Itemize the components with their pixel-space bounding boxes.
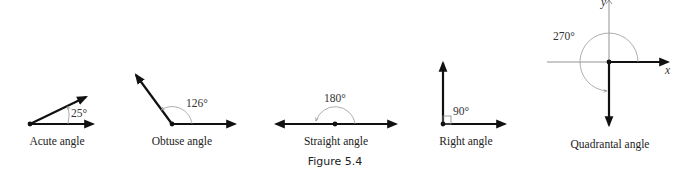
right-angle-diagram: 90° Right angle bbox=[439, 63, 505, 148]
y-axis-label: y bbox=[600, 0, 607, 9]
panel-caption: Straight angle bbox=[304, 135, 368, 148]
vertex-dot bbox=[170, 122, 175, 127]
angle-label: 270° bbox=[553, 30, 575, 42]
panel-caption: Quadrantal angle bbox=[571, 138, 650, 151]
straight-angle-diagram: 180° Straight angle Figure 5.4 bbox=[276, 92, 396, 168]
angle-label: 90° bbox=[453, 105, 470, 117]
angle-label: 25° bbox=[71, 107, 88, 119]
vertex-dot bbox=[441, 122, 446, 127]
quadrantal-angle-diagram: 270° x y Quadrantal angle bbox=[547, 0, 671, 151]
acute-angle-diagram: 25° Acute angle bbox=[28, 97, 93, 148]
x-axis-label: x bbox=[664, 64, 671, 76]
terminal-ray bbox=[136, 75, 172, 124]
obtuse-angle-diagram: 126° Obtuse angle bbox=[136, 75, 235, 148]
figure-caption: Figure 5.4 bbox=[308, 155, 363, 168]
angle-arc bbox=[316, 107, 355, 124]
vertex-dot bbox=[28, 122, 33, 127]
panel-caption: Obtuse angle bbox=[152, 135, 212, 148]
vertex-dot bbox=[607, 60, 612, 65]
angle-types-figure: 25° Acute angle 126° Obtuse angle 180° S… bbox=[0, 0, 699, 175]
angle-label: 126° bbox=[186, 97, 208, 109]
panel-caption: Right angle bbox=[439, 135, 492, 148]
panel-caption: Acute angle bbox=[29, 135, 84, 148]
angle-arc bbox=[68, 106, 69, 124]
angle-label: 180° bbox=[324, 92, 346, 104]
vertex-dot bbox=[333, 122, 338, 127]
